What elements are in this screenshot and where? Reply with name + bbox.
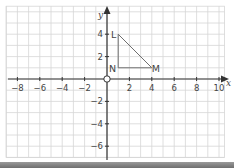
x-tick-label: 4 bbox=[149, 83, 154, 93]
x-tick-label: −6 bbox=[34, 83, 47, 93]
y-tick-label: −2 bbox=[90, 96, 103, 106]
triangle-lmn: LMN bbox=[109, 29, 160, 74]
y-tick-label: −4 bbox=[90, 119, 103, 129]
x-tick-label: 10 bbox=[214, 83, 225, 93]
x-axis-label: x bbox=[226, 78, 231, 88]
coordinate-graph: xy −8−6−4−224681042−2−4−6 LMN bbox=[0, 0, 234, 168]
triangle-outline bbox=[118, 34, 152, 68]
x-tick-label: 8 bbox=[194, 83, 199, 93]
x-tick-label: −8 bbox=[11, 83, 24, 93]
y-tick-label: −6 bbox=[90, 141, 103, 151]
y-axis-arrow-icon bbox=[104, 6, 111, 14]
y-tick-label: 2 bbox=[98, 52, 103, 62]
vertex-label-l: L bbox=[111, 29, 117, 40]
y-axis-label: y bbox=[97, 10, 104, 20]
x-tick-label: 6 bbox=[171, 83, 176, 93]
y-tick-label: 4 bbox=[98, 29, 103, 39]
bottom-bar bbox=[0, 162, 234, 168]
vertex-label-m: M bbox=[152, 63, 160, 74]
x-tick-label: 2 bbox=[127, 83, 132, 93]
x-tick-label: −4 bbox=[56, 83, 69, 93]
origin-marker bbox=[104, 76, 110, 82]
vertex-label-n: N bbox=[109, 63, 116, 74]
x-tick-label: −2 bbox=[78, 83, 91, 93]
